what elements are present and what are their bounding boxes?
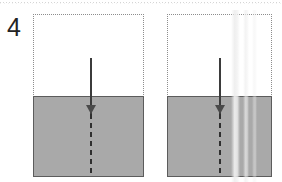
arrow-dashed-trail-right bbox=[219, 114, 221, 176]
figure-label: 4 bbox=[7, 14, 21, 40]
arrow-head-right bbox=[215, 105, 225, 114]
arrow-head-left bbox=[86, 105, 96, 114]
arrow-dashed-trail-left bbox=[90, 114, 92, 176]
right-panel bbox=[167, 14, 272, 177]
left-panel bbox=[33, 14, 144, 177]
figure-root: 4 bbox=[0, 0, 282, 182]
scan-dotted-rule-secondary bbox=[0, 3, 282, 4]
